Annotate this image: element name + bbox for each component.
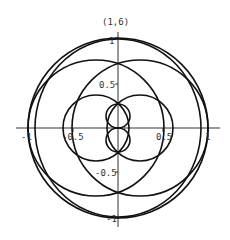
y-label-neg05: -0.5 [95, 168, 117, 178]
x-label-pos05: 0.5 [156, 132, 172, 142]
y-label-neg1: -1 [106, 214, 117, 224]
polar-plot: (1,6) -1 -0.5 0.5 1 1 0.5 -0.5 -1 [0, 0, 230, 240]
plot-title: (1,6) [102, 17, 129, 27]
x-label-neg1: -1 [21, 132, 32, 142]
y-label-pos1: 1 [109, 36, 114, 46]
x-label-pos1: 1 [205, 132, 210, 142]
x-label-neg05: -0.5 [62, 132, 84, 142]
y-label-pos05: 0.5 [99, 80, 115, 90]
